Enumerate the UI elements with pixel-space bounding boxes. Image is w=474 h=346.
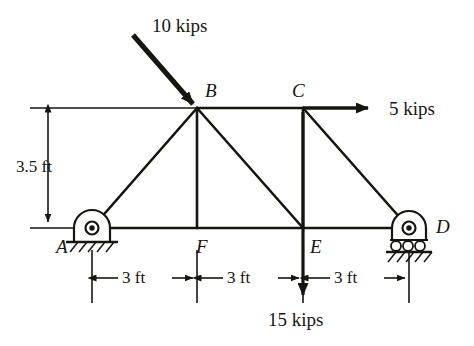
- joint-label-D: D: [436, 217, 450, 236]
- ground-hatch-D: [388, 252, 432, 262]
- dimension-label-span-E-D: 3 ft: [334, 269, 357, 286]
- dimension-label-span-F-E: 3 ft: [227, 269, 250, 286]
- truss-drawing-canvas: [0, 0, 474, 346]
- load-label-5-kips: 5 kips: [389, 99, 435, 118]
- dimension-label-span-A-F: 3 ft: [122, 269, 145, 286]
- joint-label-B: B: [205, 81, 217, 100]
- load-arrow-10-kips: [133, 35, 193, 104]
- applied-loads: [133, 35, 368, 295]
- load-label-15-kips: 15 kips: [268, 310, 323, 329]
- truss-diagram: A B C D E F 10 kips 5 kips 15 kips 3.5 f…: [0, 0, 474, 346]
- member-B-E: [197, 108, 303, 228]
- joint-label-E: E: [310, 237, 322, 256]
- joint-label-A: A: [56, 237, 68, 256]
- reference-lines: [30, 108, 197, 228]
- support-pin-A: [66, 210, 118, 252]
- member-C-D: [303, 108, 409, 228]
- joint-label-C: C: [292, 81, 305, 100]
- member-A-B: [92, 108, 197, 228]
- dimension-label-height: 3.5 ft: [16, 158, 52, 175]
- load-label-10-kips: 10 kips: [152, 16, 207, 35]
- truss-members: [92, 108, 409, 228]
- joint-label-F: F: [196, 237, 208, 256]
- rollers-D: [391, 241, 425, 251]
